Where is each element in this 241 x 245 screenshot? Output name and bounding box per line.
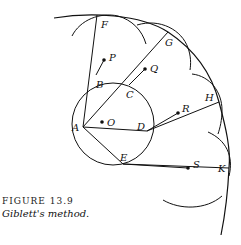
label-a: A <box>71 122 79 133</box>
label-c: C <box>126 89 134 100</box>
dot-q <box>143 67 147 71</box>
label-f: F <box>100 19 109 30</box>
label-b: B <box>95 79 103 90</box>
dot-p <box>102 58 106 62</box>
label-s: S <box>193 159 200 170</box>
dot-s <box>186 166 190 170</box>
label-e: E <box>119 152 128 163</box>
arc-h <box>192 74 222 134</box>
line-a-e <box>83 127 123 164</box>
dot-r <box>176 111 180 115</box>
dot-o <box>100 120 104 124</box>
label-p: P <box>108 52 116 63</box>
line-c-q <box>129 69 145 85</box>
label-r: R <box>181 103 190 114</box>
figure-title: Giblett's method. <box>2 208 89 219</box>
label-g: G <box>165 37 173 48</box>
line-a-f <box>83 15 97 127</box>
label-q: Q <box>150 63 158 74</box>
label-d: D <box>136 121 145 132</box>
label-h: H <box>204 92 214 103</box>
line-b-p <box>96 60 104 75</box>
label-k: K <box>217 163 226 174</box>
arc-bottom <box>163 196 222 207</box>
label-o: O <box>107 117 115 128</box>
figure-number: FIGURE 13.9 <box>2 196 74 206</box>
line-d-r <box>147 113 178 131</box>
